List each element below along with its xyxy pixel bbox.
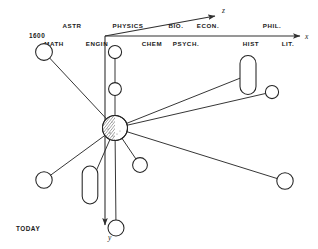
discipline-labels-upper: ASTR PHYSICS BIO. ECON. PHIL. xyxy=(62,22,281,29)
node-math[interactable] xyxy=(36,44,53,61)
label-psych: PSYCH. xyxy=(173,40,199,47)
label-physics: PHYSICS xyxy=(112,22,143,29)
label-econ: ECON. xyxy=(197,22,219,29)
diagram-canvas: x z y 1600 TODAY ASTR PHYSICS BIO. ECON.… xyxy=(0,0,318,249)
node-bio[interactable] xyxy=(36,172,52,188)
label-chem: CHEM xyxy=(142,40,162,47)
label-astr: ASTR xyxy=(62,22,81,29)
node-astr[interactable] xyxy=(108,220,124,236)
central-body[interactable] xyxy=(103,116,128,141)
today-label: TODAY xyxy=(16,225,40,232)
node-hist[interactable] xyxy=(240,56,256,95)
node-psych[interactable] xyxy=(133,158,148,173)
discipline-labels-lower: MATH ENGIN CHEM PSYCH. HIST LIT. xyxy=(44,40,294,47)
x-axis-label: x xyxy=(304,32,309,41)
spoke-to-math xyxy=(44,52,115,128)
label-lit: LIT. xyxy=(282,40,295,47)
spoke-to-bio xyxy=(44,128,115,180)
knowledge-growth-diagram: x z y 1600 TODAY ASTR PHYSICS BIO. ECON.… xyxy=(0,0,318,249)
spoke-to-phil xyxy=(115,92,272,128)
node-econ[interactable] xyxy=(82,166,98,204)
node-chem[interactable] xyxy=(109,83,122,96)
spoke-to-astr xyxy=(115,128,116,228)
node-lit[interactable] xyxy=(277,173,293,189)
label-phil: PHIL. xyxy=(263,22,282,29)
label-engin: ENGIN xyxy=(86,40,108,47)
origin-year-label: 1600 xyxy=(29,32,45,39)
spoke-to-hist xyxy=(115,75,248,128)
z-axis-label: z xyxy=(221,6,225,15)
node-engin[interactable] xyxy=(108,45,121,58)
label-bio: BIO. xyxy=(169,22,184,29)
spoke-to-lit xyxy=(115,128,285,181)
label-hist: HIST xyxy=(243,40,259,47)
node-phil[interactable] xyxy=(265,85,278,98)
node-group xyxy=(36,44,294,236)
